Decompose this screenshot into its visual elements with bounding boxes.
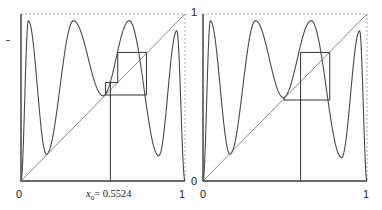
left-y-tick-mark <box>6 40 10 41</box>
x0-value: = 0.5524 <box>94 188 131 199</box>
map-curve <box>203 21 367 181</box>
x0-annotation: x0= 0.5524 <box>86 189 132 202</box>
left-x-axis-min-label: 0 <box>16 189 22 200</box>
right-y-axis-min-label: 0 <box>191 176 197 187</box>
cobweb-path <box>105 52 146 181</box>
right-panel-plot <box>203 14 367 181</box>
map-curve <box>21 21 185 181</box>
left-x-axis-max-label: 1 <box>179 189 185 200</box>
cobweb-path <box>284 52 330 181</box>
right-y-axis-max-label: 1 <box>191 7 197 18</box>
right-x-axis-max-label: 1 <box>363 189 369 200</box>
right-x-axis-min-label: 0 <box>200 189 206 200</box>
left-panel-plot <box>21 14 185 181</box>
diagonal-line <box>21 14 185 181</box>
